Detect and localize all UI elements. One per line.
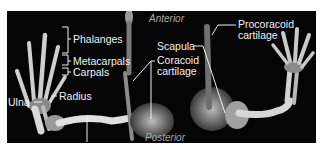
procoracoid-label-line2: cartilage	[238, 30, 278, 41]
anterior-label: Anterior	[149, 13, 184, 24]
radius-label: Radius	[59, 91, 92, 102]
skeleton-photo: Anterior Posterior Phalanges Metacarpals…	[7, 11, 316, 143]
procoracoid-cartilage	[207, 27, 209, 107]
right-forearm	[287, 69, 290, 101]
phalanges-label: Phalanges	[73, 34, 123, 45]
ulna-label: Ulna	[8, 97, 30, 108]
scapula-label: Scapula	[157, 41, 195, 52]
posterior-label: Posterior	[145, 132, 185, 143]
carpals-label: Carpals	[73, 67, 109, 78]
coracoid-label-line2: cartilage	[157, 66, 197, 77]
left-scapula	[125, 73, 132, 139]
